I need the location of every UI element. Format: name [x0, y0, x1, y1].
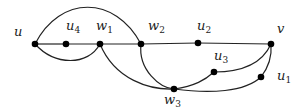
edge-u-w2 — [35, 7, 141, 44]
edge-u1-v — [261, 44, 271, 77]
edge-w2-w3 — [141, 44, 174, 89]
vertex-u3 — [211, 69, 218, 76]
vertex-u — [32, 41, 39, 48]
vertex-label-w2: w2 — [148, 18, 165, 35]
vertex-w2 — [138, 41, 145, 48]
edge-u2-v — [198, 43, 271, 44]
vertex-u2 — [195, 40, 202, 47]
vertex-label-v: v — [277, 21, 285, 36]
vertex-label-u1: u1 — [277, 68, 291, 85]
edge-w3-u1 — [174, 77, 261, 91]
vertex-label-u2: u2 — [197, 18, 211, 35]
edge-w3-u3 — [174, 72, 214, 89]
vertex-w1 — [97, 41, 104, 48]
vertex-labels: uu4w1w2u2vu3u1w3 — [14, 18, 291, 109]
edge-w2-u2 — [141, 43, 198, 44]
vertex-u4 — [63, 41, 70, 48]
edge-w1-w3 — [100, 44, 174, 89]
vertex-label-u: u — [14, 24, 22, 39]
vertex-label-w1: w1 — [96, 18, 113, 35]
vertex-label-u3: u3 — [214, 48, 228, 65]
vertex-label-u4: u4 — [66, 18, 80, 35]
graph-diagram: uu4w1w2u2vu3u1w3 — [0, 0, 305, 112]
vertices — [32, 40, 275, 93]
vertex-label-w3: w3 — [164, 92, 181, 109]
vertex-v — [268, 41, 275, 48]
vertex-u1 — [258, 74, 265, 81]
